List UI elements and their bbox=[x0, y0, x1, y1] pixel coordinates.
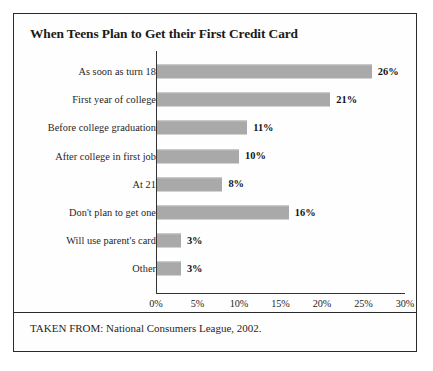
bar bbox=[156, 121, 247, 135]
chart-title: When Teens Plan to Get their First Credi… bbox=[30, 26, 298, 42]
category-label: Other bbox=[132, 263, 156, 274]
category-label: Before college graduation bbox=[48, 122, 156, 133]
bar-row: As soon as turn 18 26% bbox=[14, 57, 418, 85]
bar-value-label: 11% bbox=[253, 122, 273, 133]
footer-divider bbox=[14, 312, 416, 313]
source-note: TAKEN FROM: National Consumers League, 2… bbox=[30, 322, 262, 334]
bar-row: Don't plan to get one 16% bbox=[14, 198, 418, 226]
category-label: Will use parent's card bbox=[66, 235, 156, 246]
bar-track: 3% bbox=[156, 262, 406, 275]
bar-value-label: 10% bbox=[245, 150, 266, 161]
bar bbox=[156, 234, 181, 248]
bar bbox=[156, 206, 289, 220]
bar bbox=[156, 262, 181, 276]
bar-track: 21% bbox=[156, 93, 406, 106]
bar-track: 8% bbox=[156, 177, 406, 190]
bar-value-label: 3% bbox=[187, 235, 203, 246]
bar-row: First year of college 21% bbox=[14, 85, 418, 113]
category-label: After college in first job bbox=[55, 150, 156, 161]
bar bbox=[156, 65, 372, 79]
bar-value-label: 8% bbox=[228, 178, 244, 189]
x-axis-tick-label: 5% bbox=[191, 298, 205, 309]
bar-track: 10% bbox=[156, 149, 406, 162]
plot-area: As soon as turn 18 26% First year of col… bbox=[14, 51, 418, 306]
bar-track: 3% bbox=[156, 234, 406, 247]
y-axis-line bbox=[156, 51, 157, 294]
bar-row: Before college graduation 11% bbox=[14, 113, 418, 141]
page-bleed-through-text bbox=[96, 0, 426, 11]
bar-row: At 21 8% bbox=[14, 170, 418, 198]
bar-rows: As soon as turn 18 26% First year of col… bbox=[14, 57, 418, 283]
x-axis-tick-label: 25% bbox=[354, 298, 373, 309]
bar bbox=[156, 149, 239, 163]
x-axis-tick-label: 0% bbox=[149, 298, 163, 309]
bar bbox=[156, 93, 330, 107]
x-axis-line bbox=[156, 293, 405, 294]
bar-value-label: 21% bbox=[336, 94, 357, 105]
x-axis-tick-label: 30% bbox=[396, 298, 415, 309]
bar-row: After college in first job 10% bbox=[14, 142, 418, 170]
bar-row: Will use parent's card 3% bbox=[14, 226, 418, 254]
bar-track: 11% bbox=[156, 121, 406, 134]
bar-row: Other 3% bbox=[14, 254, 418, 282]
category-label: Don't plan to get one bbox=[69, 207, 156, 218]
x-axis-tick-label: 20% bbox=[313, 298, 332, 309]
bar-track: 16% bbox=[156, 206, 406, 219]
bar-value-label: 3% bbox=[187, 263, 203, 274]
bar-value-label: 16% bbox=[295, 207, 316, 218]
category-label: As soon as turn 18 bbox=[78, 66, 156, 77]
bar-track: 26% bbox=[156, 65, 406, 78]
category-label: First year of college bbox=[72, 94, 156, 105]
x-axis-tick-label: 10% bbox=[230, 298, 249, 309]
category-label: At 21 bbox=[133, 178, 156, 189]
figure-frame: When Teens Plan to Get their First Credi… bbox=[13, 13, 417, 352]
x-axis-tick-label: 15% bbox=[271, 298, 290, 309]
bar-value-label: 26% bbox=[378, 66, 399, 77]
bar bbox=[156, 177, 222, 191]
